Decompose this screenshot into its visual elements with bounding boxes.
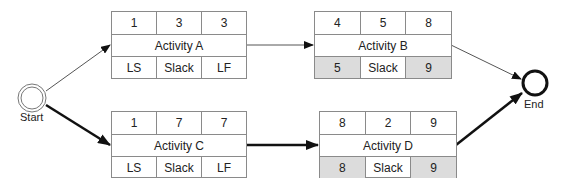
late-finish: 9 [405,57,451,78]
network-edges [0,0,574,187]
slack: Slack [156,57,201,78]
activity-node-d: 8 2 9 Activity D 8 Slack 9 [319,111,457,178]
late-start: LS [112,157,156,178]
duration: 3 [156,12,201,34]
activity-node-b: 4 5 8 Activity B 5 Slack 9 [314,11,452,79]
early-start: 4 [315,12,360,34]
activity-node-a: 1 3 3 Activity A LS Slack LF [111,11,247,79]
end-node-icon [523,71,547,95]
early-finish: 8 [405,12,451,34]
edge-d-end [456,93,522,145]
late-start: LS [112,57,156,78]
early-finish: 9 [410,112,456,134]
edge-start-a [46,45,110,91]
slack: Slack [365,157,411,178]
activity-name: Activity A [112,35,246,56]
duration: 5 [360,12,406,34]
slack: Slack [360,57,406,78]
early-start: 1 [112,112,156,134]
start-node-icon [18,84,46,112]
activity-node-c: 1 7 7 Activity C LS Slack LF [111,111,247,178]
early-finish: 7 [201,112,246,134]
late-finish: 9 [410,157,456,178]
late-start: 8 [320,157,365,178]
slack: Slack [156,157,201,178]
late-finish: LF [201,57,246,78]
late-finish: LF [201,157,246,178]
late-start: 5 [315,57,360,78]
start-label: Start [20,111,43,123]
duration: 2 [365,112,411,134]
activity-name: Activity B [315,35,451,56]
edge-b-end [451,45,521,79]
activity-name: Activity C [112,135,246,156]
duration: 7 [156,112,201,134]
edge-start-c [46,105,110,145]
activity-name: Activity D [320,135,456,156]
end-label: End [524,98,544,110]
early-start: 1 [112,12,156,34]
early-finish: 3 [201,12,246,34]
early-start: 8 [320,112,365,134]
